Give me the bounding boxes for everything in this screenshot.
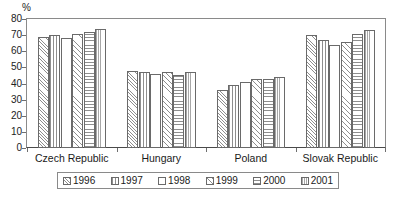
bar-group <box>38 19 107 148</box>
bar <box>61 38 72 148</box>
bar <box>306 35 317 148</box>
x-axis-category-label: Czech Republic <box>27 152 117 164</box>
bar <box>274 77 285 148</box>
legend-swatch-icon <box>63 177 71 185</box>
chart-legend: 199619971998199920002001 <box>57 172 339 189</box>
bar <box>341 42 352 148</box>
x-axis-category-label: Slovak Republic <box>296 152 386 164</box>
bar-group <box>127 19 196 148</box>
legend-item[interactable]: 1999 <box>206 176 238 186</box>
bar <box>84 32 95 148</box>
bar <box>38 37 49 148</box>
legend-item[interactable]: 1996 <box>63 176 95 186</box>
y-axis-tick-label: 0 <box>0 143 22 153</box>
legend-item[interactable]: 2001 <box>301 176 333 186</box>
y-axis-tick-mark <box>22 35 26 36</box>
bar <box>240 82 251 148</box>
legend-swatch-icon <box>111 177 119 185</box>
legend-item[interactable]: 1997 <box>111 176 143 186</box>
bar-group <box>217 19 286 148</box>
y-axis-tick-mark <box>22 148 26 149</box>
y-axis-tick-label: 30 <box>0 95 22 105</box>
bar <box>352 34 363 148</box>
x-axis-category-label: Hungary <box>117 152 207 164</box>
bar <box>49 35 60 148</box>
bar <box>228 85 239 148</box>
legend-swatch-icon <box>253 177 261 185</box>
legend-label: 1996 <box>73 176 95 186</box>
y-axis-tick-mark <box>22 116 26 117</box>
bar <box>150 74 161 148</box>
y-axis-tick-mark <box>22 67 26 68</box>
legend-item[interactable]: 2000 <box>253 176 285 186</box>
legend-label: 2000 <box>263 176 285 186</box>
x-axis-category-label: Poland <box>206 152 296 164</box>
y-axis-tick-label: 50 <box>0 62 22 72</box>
legend-swatch-icon <box>206 177 214 185</box>
y-axis-tick-mark <box>22 84 26 85</box>
y-axis-tick-mark <box>22 51 26 52</box>
bar <box>139 72 150 148</box>
y-axis-tick-label: 70 <box>0 30 22 40</box>
legend-label: 1998 <box>168 176 190 186</box>
bar-chart: % 01020304050607080 Czech RepublicHungar… <box>0 0 394 202</box>
legend-label: 1997 <box>121 176 143 186</box>
y-axis-tick-label: 80 <box>0 14 22 24</box>
bar <box>162 72 173 148</box>
bar <box>329 45 340 148</box>
bar <box>185 72 196 148</box>
bar <box>318 40 329 148</box>
bar <box>263 79 274 148</box>
bar <box>251 79 262 148</box>
legend-label: 2001 <box>311 176 333 186</box>
bar <box>127 71 138 148</box>
y-axis-tick-label: 40 <box>0 79 22 89</box>
y-axis-tick-mark <box>22 100 26 101</box>
legend-label: 1999 <box>216 176 238 186</box>
bar-group <box>306 19 375 148</box>
bar <box>364 30 375 148</box>
y-axis-tick-label: 10 <box>0 127 22 137</box>
bars-layer <box>27 19 385 148</box>
y-axis-tick-label: 20 <box>0 111 22 121</box>
bar <box>217 90 228 148</box>
bar <box>95 29 106 148</box>
legend-swatch-icon <box>158 177 166 185</box>
legend-swatch-icon <box>301 177 309 185</box>
y-axis-unit-label: % <box>22 2 31 13</box>
legend-item[interactable]: 1998 <box>158 176 190 186</box>
y-axis-tick-label: 60 <box>0 46 22 56</box>
y-axis-tick-mark <box>22 132 26 133</box>
x-axis-tick-mark <box>385 148 386 152</box>
bar <box>173 75 184 148</box>
bar <box>72 34 83 148</box>
y-axis-tick-mark <box>22 19 26 20</box>
